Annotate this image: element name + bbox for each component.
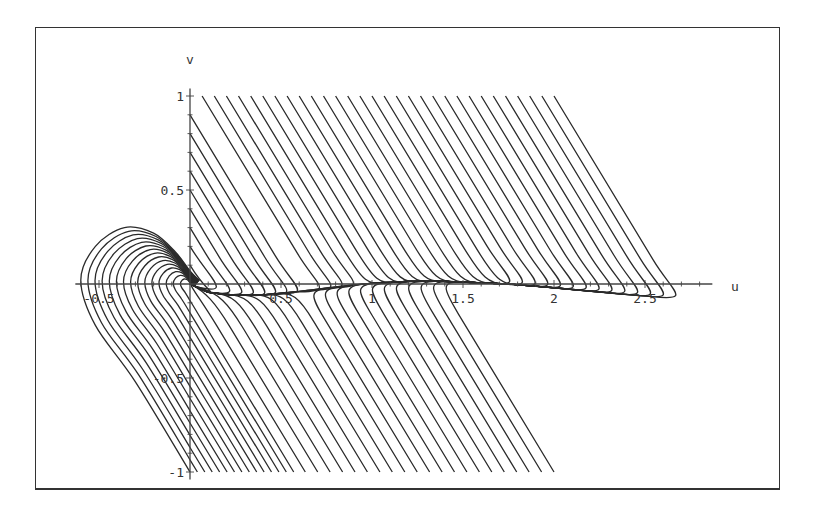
trajectory-bottom: [396, 281, 508, 472]
trajectory-top: [509, 96, 676, 298]
trajectory-axis: [190, 115, 298, 295]
trajectory-loop: [180, 279, 293, 472]
trajectory-top: [421, 96, 536, 286]
trajectory-top: [469, 96, 586, 290]
x-tick-label: 2.5: [633, 291, 656, 306]
trajectory-bottom: [190, 284, 367, 472]
x-tick-label: 2: [550, 291, 558, 306]
y-tick-label: -0.5: [153, 371, 184, 386]
y-axis-label: v: [186, 52, 194, 67]
phase-portrait-figure: -0.50.511.522.5-1-0.50.51 v u: [0, 0, 814, 511]
trajectory-bottom: [190, 284, 343, 472]
x-axis-label: u: [731, 279, 739, 294]
trajectory-top: [336, 96, 509, 284]
trajectory-bottom: [325, 281, 508, 472]
x-tick-label: 1: [368, 291, 376, 306]
axes: [75, 88, 712, 479]
trajectory-loop: [131, 253, 242, 472]
x-tick-label: 1.5: [451, 291, 474, 306]
x-tick-label: -0.5: [83, 291, 114, 306]
trajectory-bottom: [190, 284, 380, 472]
trajectory-bottom: [190, 284, 330, 472]
trajectory-loop: [124, 249, 235, 472]
trajectory-top: [481, 96, 599, 291]
trajectory-bottom: [372, 281, 508, 472]
trajectory-top: [445, 96, 561, 288]
y-tick-label: 0.5: [161, 183, 184, 198]
trajectory-top: [263, 96, 509, 284]
trajectory-top: [190, 96, 319, 295]
trajectory-top: [457, 96, 574, 289]
y-tick-label: 1: [176, 89, 184, 104]
plot-canvas: -0.50.511.522.5-1-0.50.51 v u: [0, 0, 814, 511]
x-tick-label: 0.5: [269, 291, 292, 306]
trajectory-top: [190, 96, 331, 295]
trajectory-top: [433, 96, 548, 287]
y-tick-label: -1: [168, 465, 184, 480]
trajectory-top: [509, 96, 638, 295]
trajectory-axis: [190, 152, 276, 295]
trajectory-bottom: [314, 281, 509, 472]
trajectory-top: [396, 96, 509, 284]
trajectory-top: [408, 96, 522, 285]
trajectory-axis: [190, 171, 265, 295]
